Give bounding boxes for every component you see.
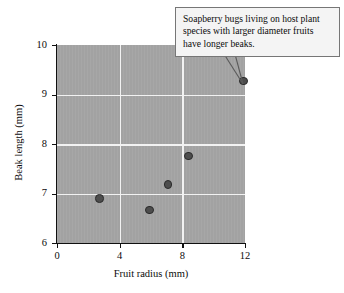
x-axis-line — [56, 243, 246, 244]
gridline-horizontal — [57, 194, 245, 196]
y-axis-tick — [52, 243, 56, 244]
y-axis-line — [56, 44, 57, 244]
gridline-vertical — [120, 45, 122, 243]
data-point — [184, 152, 193, 161]
data-point — [239, 77, 248, 86]
gridline-horizontal — [57, 95, 245, 97]
x-axis-tick-label: 4 — [107, 251, 133, 262]
y-axis-title: Beak length (mm) — [13, 73, 24, 213]
y-axis-tick — [52, 95, 56, 96]
y-axis-tick-label: 7 — [25, 188, 47, 199]
chart-figure: 67891004812 Fruit radius (mm) Beak lengt… — [0, 0, 344, 293]
data-point — [95, 194, 104, 203]
y-axis-tick — [52, 144, 56, 145]
y-axis-tick — [52, 45, 56, 46]
y-axis-tick — [52, 194, 56, 195]
x-axis-tick-label: 12 — [232, 251, 258, 262]
annotation-callout: Soapberry bugs living on host plant spec… — [175, 7, 340, 57]
y-axis-tick-label: 6 — [25, 238, 47, 249]
y-axis-tick-label: 8 — [25, 139, 47, 150]
y-axis-tick-label: 10 — [25, 40, 47, 51]
gridline-horizontal — [57, 144, 245, 146]
x-axis-tick-label: 8 — [169, 251, 195, 262]
x-axis-tick — [120, 244, 121, 248]
y-axis-tick-label: 9 — [25, 89, 47, 100]
data-point — [145, 206, 154, 215]
x-axis-tick — [245, 244, 246, 248]
gridline-vertical — [182, 45, 184, 243]
x-axis-tick — [182, 244, 183, 248]
x-axis-title: Fruit radius (mm) — [57, 268, 245, 279]
x-axis-tick — [57, 244, 58, 248]
x-axis-tick-label: 0 — [44, 251, 70, 262]
